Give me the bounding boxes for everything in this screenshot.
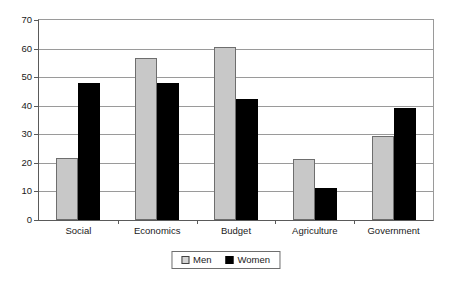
y-axis-tick-label: 10 bbox=[21, 187, 32, 197]
y-axis-tick bbox=[34, 163, 39, 164]
x-axis-tick bbox=[354, 220, 355, 224]
legend-entry-men: Men bbox=[181, 255, 211, 265]
legend-label-men: Men bbox=[193, 255, 211, 265]
gridline bbox=[39, 77, 433, 78]
bar-men-agriculture bbox=[293, 159, 315, 220]
x-axis-tick bbox=[275, 220, 276, 224]
gridline bbox=[39, 49, 433, 50]
y-axis-tick-label: 20 bbox=[21, 158, 32, 168]
y-axis-tick-label: 50 bbox=[21, 72, 32, 82]
bar-chart: 010203040506070 SocialEconomicsBudgetAgr… bbox=[0, 0, 451, 286]
y-axis-tick bbox=[34, 134, 39, 135]
y-axis-tick-label: 30 bbox=[21, 130, 32, 140]
x-axis-label-social: Social bbox=[65, 226, 91, 236]
bar-men-economics bbox=[135, 58, 157, 220]
bar-men-budget bbox=[214, 47, 236, 220]
bar-men-social bbox=[56, 158, 78, 220]
y-axis-tick bbox=[34, 220, 39, 221]
x-axis-label-budget: Budget bbox=[221, 226, 251, 236]
legend-entry-women: Women bbox=[225, 255, 270, 265]
y-axis-tick-label: 40 bbox=[21, 101, 32, 111]
chart-legend: MenWomen bbox=[171, 251, 280, 269]
x-axis-tick bbox=[118, 220, 119, 224]
x-axis-label-economics: Economics bbox=[134, 226, 180, 236]
y-axis-tick bbox=[34, 49, 39, 50]
y-axis-tick-label: 60 bbox=[21, 44, 32, 54]
bar-women-agriculture bbox=[315, 188, 337, 220]
bar-women-government bbox=[394, 108, 416, 220]
legend-swatch-men-icon bbox=[181, 256, 189, 264]
y-axis-tick-label: 0 bbox=[27, 215, 32, 225]
bar-women-economics bbox=[157, 83, 179, 220]
y-axis-tick-label: 70 bbox=[21, 15, 32, 25]
y-axis-tick bbox=[34, 77, 39, 78]
plot-area: 010203040506070 bbox=[38, 19, 434, 221]
y-axis-tick bbox=[34, 20, 39, 21]
bar-women-budget bbox=[236, 99, 258, 220]
legend-swatch-women-icon bbox=[225, 256, 233, 264]
y-axis-tick bbox=[34, 106, 39, 107]
x-axis-label-government: Government bbox=[367, 226, 419, 236]
bar-women-social bbox=[78, 83, 100, 220]
x-axis-tick bbox=[197, 220, 198, 224]
y-axis-tick bbox=[34, 191, 39, 192]
legend-label-women: Women bbox=[237, 255, 270, 265]
bar-men-government bbox=[372, 136, 394, 220]
x-axis-label-agriculture: Agriculture bbox=[292, 226, 337, 236]
